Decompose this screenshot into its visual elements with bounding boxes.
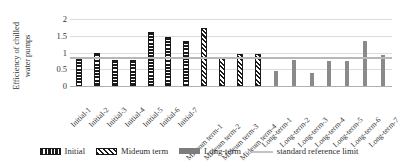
bar-slot <box>374 19 392 86</box>
bar-initial-1[interactable] <box>76 58 82 86</box>
legend-item-initial[interactable]: Initial <box>40 146 86 156</box>
bar-slot <box>303 19 321 86</box>
y-axis-tick-label: 0 <box>63 82 67 91</box>
bar-long-term-7[interactable] <box>381 55 385 86</box>
standard-reference-limit-line <box>70 57 392 59</box>
legend-swatch-longterm-icon <box>179 148 200 154</box>
plot-area: 00.511.52 <box>70 19 392 86</box>
y-axis-tick-label: 0.5 <box>56 65 67 74</box>
bar-slot <box>285 19 303 86</box>
bar-initial-5[interactable] <box>148 32 154 86</box>
bar-initial-4[interactable] <box>130 60 136 86</box>
x-axis-tick-labels: Initial-1Initial-2Initial-3Initial-4Init… <box>70 86 392 134</box>
legend-label: standard reference limit <box>277 146 359 156</box>
bar-slot <box>142 19 160 86</box>
bar-long-term-5[interactable] <box>345 61 349 86</box>
bar-slot <box>70 19 88 86</box>
y-axis-tick-label: 1 <box>63 48 67 57</box>
legend-label: Long-term <box>204 146 241 156</box>
bar-slot <box>338 19 356 86</box>
chart-legend: InitialMideum termLong-termstandard refe… <box>0 144 398 158</box>
y-axis-title: Efficiency of chilled water pumps <box>2 4 28 108</box>
bar-slot <box>356 19 374 86</box>
bar-slot <box>195 19 213 86</box>
bar-initial-3[interactable] <box>112 60 118 86</box>
bar-slot <box>320 19 338 86</box>
y-axis-tick-label: 2 <box>63 15 67 24</box>
bar-long-term-6[interactable] <box>363 41 367 86</box>
legend-swatch-refline-icon <box>252 148 273 155</box>
bar-series-container <box>70 19 392 86</box>
bar-slot <box>249 19 267 86</box>
bar-slot <box>267 19 285 86</box>
legend-label: Initial <box>65 146 86 156</box>
bar-slot <box>231 19 249 86</box>
bar-slot <box>106 19 124 86</box>
bar-initial-6[interactable] <box>165 37 171 86</box>
bar-slot <box>213 19 231 86</box>
chart-figure: Efficiency of chilled water pumps 00.511… <box>0 0 398 168</box>
bar-long-term-2[interactable] <box>292 60 296 86</box>
bar-slot <box>88 19 106 86</box>
bar-long-term-1[interactable] <box>274 71 278 86</box>
legend-swatch-initial-icon <box>40 148 61 155</box>
y-axis-tick-label: 1.5 <box>56 31 67 40</box>
bar-slot <box>124 19 142 86</box>
legend-item-mideum[interactable]: Mideum term <box>96 146 168 156</box>
bar-long-term-3[interactable] <box>310 73 314 86</box>
legend-label: Mideum term <box>121 146 168 156</box>
bar-slot <box>159 19 177 86</box>
bar-slot <box>177 19 195 86</box>
legend-item-longterm[interactable]: Long-term <box>179 146 241 156</box>
bar-mideum-term-2[interactable] <box>219 58 225 86</box>
legend-swatch-mideum-icon <box>96 148 117 155</box>
bar-initial-7[interactable] <box>183 41 189 86</box>
legend-item-refline[interactable]: standard reference limit <box>252 146 359 156</box>
bar-long-term-4[interactable] <box>327 61 331 86</box>
